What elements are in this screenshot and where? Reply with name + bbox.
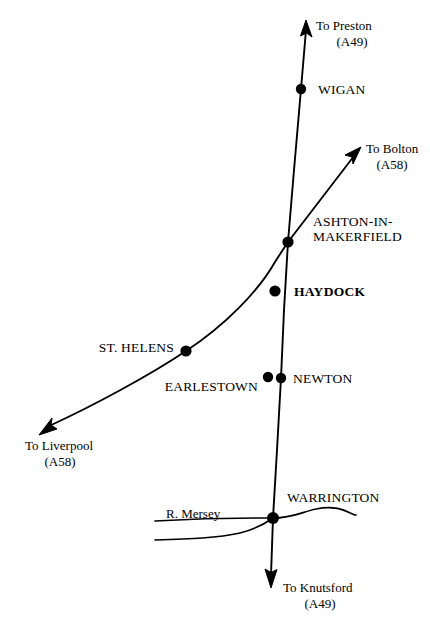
- destination-label-knutsford-line1: To Knutsford: [283, 580, 353, 595]
- map-canvas: Road map of the Haydock / Ashton-in-Make…: [0, 0, 430, 629]
- town-label-newton: NEWTON: [293, 371, 352, 386]
- river-label-mersey: R. Mersey: [166, 506, 221, 521]
- arrow-head-to-bolton: [345, 147, 361, 164]
- destination-label-bolton-line2: (A58): [376, 157, 407, 172]
- road-map-figure: Road map of the Haydock / Ashton-in-Make…: [0, 0, 430, 629]
- destination-label-liverpool-line1: To Liverpool: [25, 438, 93, 453]
- town-label-earlestown: EARLESTOWN: [165, 379, 258, 394]
- town-dot-wigan[interactable]: [296, 84, 306, 94]
- town-label-warrington: WARRINGTON: [287, 490, 380, 505]
- town-label-ashton-line1: ASHTON-IN-: [313, 214, 393, 229]
- destination-label-preston-line2: (A49): [336, 34, 367, 49]
- destination-label-knutsford-line2: (A49): [304, 596, 335, 611]
- town-label-haydock: HAYDOCK: [294, 284, 366, 299]
- town-dot-newton[interactable]: [276, 373, 286, 383]
- destination-labels: To Preston (A49) To Bolton (A58) To Live…: [25, 18, 419, 611]
- arrow-head-to-liverpool: [39, 418, 57, 435]
- town-dot-haydock[interactable]: [269, 285, 280, 296]
- town-labels: WIGAN ASHTON-IN- MAKERFIELD HAYDOCK ST. …: [99, 82, 402, 505]
- town-dot-st-helens[interactable]: [180, 345, 191, 356]
- town-dot-warrington[interactable]: [267, 512, 279, 524]
- town-dot-earlestown[interactable]: [263, 372, 273, 382]
- town-label-ashton-line2: MAKERFIELD: [313, 229, 402, 244]
- town-label-wigan: WIGAN: [318, 82, 366, 97]
- town-dot-ashton[interactable]: [282, 236, 293, 247]
- destination-label-preston-line1: To Preston: [316, 18, 372, 33]
- destination-label-liverpool-line2: (A58): [44, 454, 75, 469]
- destination-label-bolton-line1: To Bolton: [366, 141, 419, 156]
- road-a58-line-southwest: [47, 242, 288, 427]
- river-mersey-south-bank: [155, 518, 273, 540]
- town-label-st-helens: ST. HELENS: [99, 340, 174, 355]
